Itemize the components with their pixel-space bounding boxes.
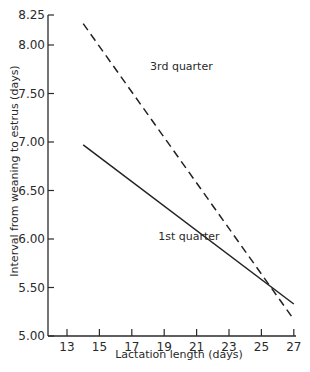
x-tick-label: 13 xyxy=(59,340,74,354)
y-tick-label: 7.50 xyxy=(18,87,45,101)
y-tick-label: 8.00 xyxy=(18,38,45,52)
label-3rd-quarter: 3rd quarter xyxy=(150,60,213,73)
x-tick-label: 15 xyxy=(92,340,107,354)
chart: 5.005.506.006.507.007.508.008.25 1315171… xyxy=(0,0,310,372)
y-tick-label: 8.25 xyxy=(18,8,45,22)
series-1st-quarter-line xyxy=(83,145,294,304)
label-1st-quarter: 1st quarter xyxy=(158,230,220,243)
y-tick-label: 5.50 xyxy=(18,281,45,295)
y-tick-label: 5.00 xyxy=(18,329,45,343)
y-tick-label: 7.00 xyxy=(18,135,45,149)
series-labels: 3rd quarter1st quarter xyxy=(150,60,220,243)
x-axis-title: Lactation length (days) xyxy=(115,348,243,361)
x-tick-label: 25 xyxy=(254,340,269,354)
y-axis-title: Interval from weaning to estrus (days) xyxy=(8,65,21,276)
x-tick-label: 27 xyxy=(286,340,301,354)
y-tick-label: 6.00 xyxy=(18,232,45,246)
y-tick-label: 6.50 xyxy=(18,184,45,198)
y-axis: 5.005.506.006.507.007.508.008.25 xyxy=(18,8,54,343)
